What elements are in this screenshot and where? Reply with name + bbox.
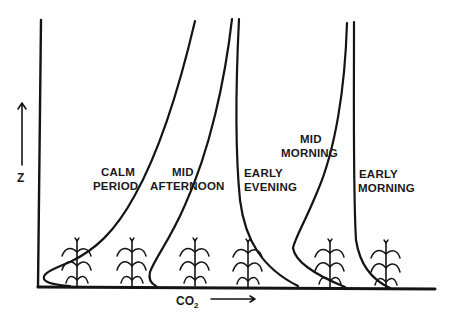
corn-plant-icon <box>117 238 146 286</box>
corn-plant-icon <box>371 240 400 288</box>
label-mid-morning-line1: MID <box>300 133 322 145</box>
crop-canopy <box>62 238 400 288</box>
co2-profile-diagram: Z CO2 CALM PERIOD MID AFTERNOON EARLY EV… <box>0 0 455 320</box>
corn-plant-icon <box>180 238 209 286</box>
label-early-evening-line1: EARLY <box>244 167 283 179</box>
label-early-evening-line2: EVENING <box>244 181 297 193</box>
curve-early-morning <box>354 22 390 288</box>
label-early-morning-line2: MORNING <box>358 182 415 194</box>
corn-plant-icon <box>315 239 344 287</box>
y-axis-line <box>38 20 41 287</box>
label-calm-period-line2: PERIOD <box>93 180 138 192</box>
x-axis-line <box>38 287 435 289</box>
up-arrow-icon <box>18 103 26 165</box>
co2-axis-indicator: CO2 <box>176 294 255 310</box>
corn-plant-icon <box>62 238 91 286</box>
corn-plant-icon <box>233 239 262 287</box>
co2-axis-label: CO2 <box>176 294 199 310</box>
label-mid-afternoon-line1: MID <box>172 166 194 178</box>
label-calm-period-line1: CALM <box>101 166 135 178</box>
z-axis-indicator: Z <box>17 103 26 185</box>
label-mid-afternoon-line2: AFTERNOON <box>150 180 225 192</box>
curve-calm-period <box>44 21 195 286</box>
curve-mid-afternoon <box>149 19 232 286</box>
label-mid-morning-line2: MORNING <box>281 147 338 159</box>
right-arrow-icon <box>211 296 255 302</box>
z-axis-label: Z <box>17 171 24 185</box>
profile-curves <box>44 19 390 288</box>
label-early-morning-line1: EARLY <box>359 168 398 180</box>
